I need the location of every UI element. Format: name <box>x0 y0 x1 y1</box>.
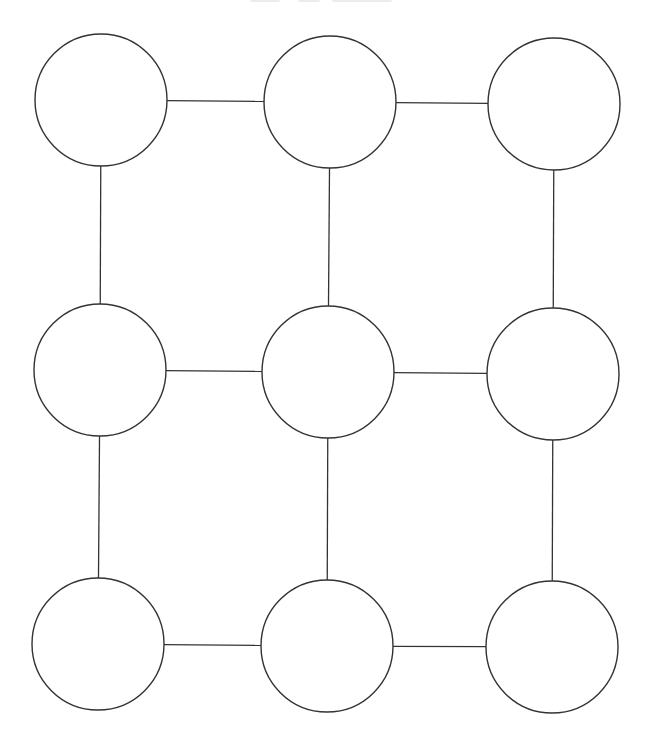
edge-n01-n02 <box>396 103 488 104</box>
edge-n02-n12 <box>553 170 554 308</box>
node-r2-c0 <box>32 578 164 710</box>
node-circle <box>34 304 166 436</box>
node-r1-c2 <box>487 308 619 440</box>
edge-n11-n21 <box>327 438 328 580</box>
node-r0-c2 <box>488 38 620 170</box>
node-circle <box>261 580 393 712</box>
edge-n10-n20 <box>98 436 99 578</box>
node-circle <box>488 38 620 170</box>
nodes-layer <box>32 34 620 713</box>
edge-n12-n22 <box>552 440 553 581</box>
edge-n00-n10 <box>100 166 101 304</box>
node-r0-c1 <box>264 36 396 168</box>
node-circle <box>264 36 396 168</box>
node-r0-c0 <box>35 34 167 166</box>
edge-n10-n11 <box>166 371 262 372</box>
node-r2-c1 <box>261 580 393 712</box>
node-r2-c2 <box>486 581 618 713</box>
node-circle <box>487 308 619 440</box>
node-circle <box>262 306 394 438</box>
edge-n00-n01 <box>167 101 264 102</box>
node-r1-c1 <box>262 306 394 438</box>
node-circle <box>32 578 164 710</box>
node-r1-c0 <box>34 304 166 436</box>
edge-n20-n21 <box>164 645 261 646</box>
edge-n01-n11 <box>328 168 329 306</box>
grid-graph-diagram <box>0 0 653 746</box>
node-circle <box>35 34 167 166</box>
node-circle <box>486 581 618 713</box>
edge-n11-n12 <box>394 373 487 374</box>
